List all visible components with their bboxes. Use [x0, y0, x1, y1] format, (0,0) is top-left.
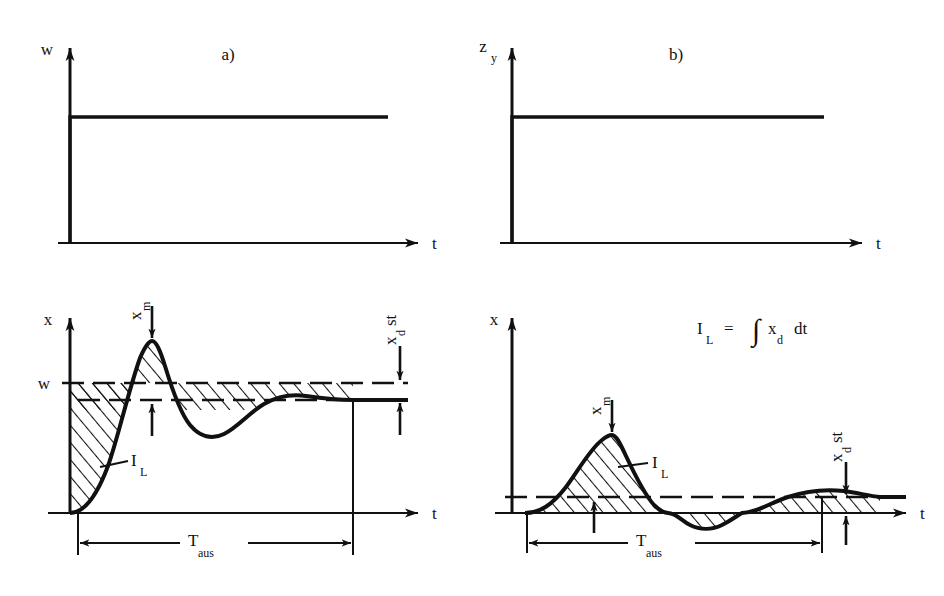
- settling-label-aus-right: aus: [646, 546, 662, 560]
- steady-label-st-left: st: [381, 314, 400, 326]
- formula-d: d: [777, 333, 783, 347]
- steady-label-d-left: d: [394, 330, 408, 336]
- area-label-L-right: L: [661, 467, 668, 481]
- steady-label-x-left: x: [381, 336, 400, 345]
- panel-caption-a: a): [221, 45, 234, 64]
- formula-x: x: [768, 319, 777, 338]
- formula-I: I: [697, 319, 703, 338]
- formula-dt: dt: [794, 319, 808, 338]
- formula-integral: I L = ∫ x d dt: [697, 313, 808, 349]
- axis-label-t-top-left: t: [432, 234, 437, 253]
- axis-label-t-bottom-right: t: [920, 504, 925, 523]
- figure-root: w t a) z y t b): [0, 0, 944, 596]
- panel-top-right: z y t b): [479, 37, 881, 253]
- peak-label-x-left: x: [126, 311, 145, 320]
- steady-dev-label-right: x d st: [827, 431, 854, 462]
- peak-label-m-left: m: [139, 301, 153, 311]
- steady-label-st-right: st: [827, 431, 846, 443]
- level-label-w-bottom-left: w: [38, 374, 51, 393]
- integral-icon: ∫: [750, 313, 762, 349]
- steady-dev-label-left: x d st: [381, 314, 408, 345]
- hatch-area-startup-left: [70, 358, 140, 513]
- panel-bottom-left: x t w x m I L T aus x d st: [38, 301, 437, 560]
- area-label-I-left: I: [131, 451, 137, 470]
- diagram-canvas: w t a) z y t b): [0, 0, 944, 596]
- response-curve-left: [70, 341, 408, 513]
- peak-label-left: x m: [126, 301, 153, 320]
- panel-bottom-right: x t I L = ∫ x d dt x m I L T aus x d st: [490, 310, 925, 560]
- formula-L: L: [706, 333, 713, 347]
- axis-label-z-top-right: z: [479, 37, 487, 56]
- step-signal-top-right: [512, 117, 824, 243]
- axis-label-t-bottom-left: t: [432, 504, 437, 523]
- area-label-L-left: L: [140, 465, 147, 479]
- peak-label-x-right: x: [586, 406, 605, 415]
- axis-label-z-sub-top-right: y: [491, 51, 497, 65]
- panel-top-left: w t a): [41, 40, 437, 253]
- axis-label-w-top-left: w: [41, 40, 54, 59]
- peak-label-m-right: m: [599, 396, 613, 406]
- area-label-I-right: I: [652, 453, 658, 472]
- peak-label-right: x m: [586, 396, 613, 415]
- formula-equals: =: [724, 319, 734, 338]
- steady-label-x-right: x: [827, 453, 846, 462]
- axis-label-t-top-right: t: [876, 234, 881, 253]
- axis-label-x-bottom-left: x: [44, 310, 53, 329]
- settling-label-aus-left: aus: [198, 546, 214, 560]
- step-signal-top-left: [70, 117, 388, 243]
- axis-label-x-bottom-right: x: [490, 310, 499, 329]
- steady-label-d-right: d: [840, 447, 854, 453]
- panel-caption-b: b): [669, 45, 683, 64]
